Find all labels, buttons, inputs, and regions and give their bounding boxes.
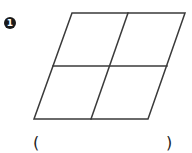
answer-open-paren: ( (33, 133, 39, 152)
answer-blank[interactable] (45, 135, 163, 151)
parallelogram-figure (0, 0, 192, 153)
answer-close-paren: ) (166, 133, 172, 152)
